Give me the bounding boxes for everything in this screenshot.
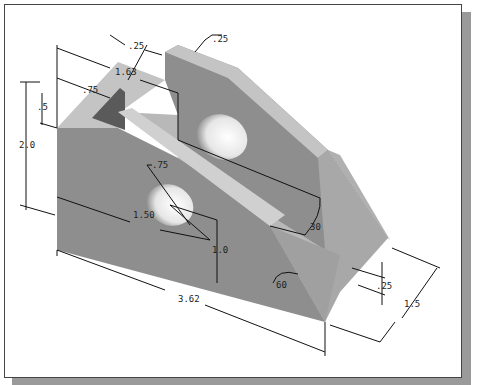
dim-slot-width: .25 bbox=[128, 41, 144, 51]
dim-base-thickness: .25 bbox=[376, 281, 392, 291]
dim-lower-hole-x: 1.50 bbox=[133, 210, 155, 220]
part-drawing: 2.0 .5 .75 1.63 .25 .25 .75 1.50 1.0 3.6… bbox=[0, 0, 477, 385]
part-body bbox=[57, 45, 390, 322]
dim-depth: 1.5 bbox=[404, 299, 420, 309]
dim-angle-upper: 30 bbox=[310, 222, 321, 232]
dim-upper-hole-offset: 1.63 bbox=[115, 67, 137, 77]
dim-slot-depth: .5 bbox=[37, 102, 48, 112]
dim-overall-height: 2.0 bbox=[19, 140, 35, 150]
dim-lower-hole-dia: .75 bbox=[152, 160, 168, 170]
dim-lower-hole-y: 1.0 bbox=[212, 245, 228, 255]
dim-overall-length: 3.62 bbox=[178, 294, 200, 304]
dim-slot-offset: .75 bbox=[82, 85, 98, 95]
dim-rib-thickness: .25 bbox=[212, 34, 228, 44]
dim-angle-lower: 60 bbox=[276, 280, 287, 290]
